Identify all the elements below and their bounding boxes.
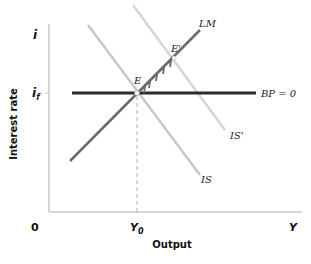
is-prime-label: IS' — [229, 130, 244, 141]
y-axis-end-label: i — [33, 28, 38, 42]
y-axis-title: Interest rate — [8, 88, 19, 160]
origin-label: 0 — [31, 221, 39, 234]
x-tick-y0-subscript: 0 — [138, 227, 144, 236]
x-axis-end-label: Y — [289, 221, 298, 234]
x-axis-title: Output — [152, 239, 192, 250]
lm-label: LM — [198, 18, 217, 29]
adjustment-arrows-icon — [140, 61, 171, 93]
y-tick-if-subscript: f — [36, 93, 41, 102]
point-e-prime-label: E' — [170, 43, 181, 54]
is-label: IS — [200, 174, 212, 185]
bp-label: BP = 0 — [260, 88, 297, 99]
point-e-prime-marker — [172, 56, 176, 60]
y-tick-if-label: if — [32, 86, 41, 102]
point-e-marker — [135, 91, 140, 96]
x-tick-y0-label: Y0 — [130, 221, 144, 236]
point-e-label: E — [133, 75, 142, 86]
is-lm-bp-diagram: LM BP = 0 IS' IS E E' i if 0 Y0 Y Output… — [0, 0, 311, 264]
